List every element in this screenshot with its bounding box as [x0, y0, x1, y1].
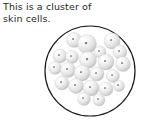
- cell-nucleus: [66, 68, 68, 70]
- cell-body: [99, 82, 113, 96]
- skin-cell: [78, 35, 97, 54]
- cell-body: [90, 67, 104, 81]
- cell-body: [66, 51, 79, 64]
- skin-cell: [114, 81, 125, 92]
- cell-body: [78, 35, 97, 54]
- skin-cell: [66, 51, 79, 64]
- skin-cell: [69, 79, 84, 94]
- skin-cell: [53, 49, 67, 63]
- cell-nucleus: [82, 97, 84, 99]
- skin-cell: [116, 57, 131, 72]
- skin-cell: [61, 63, 76, 78]
- cell-body: [69, 79, 84, 94]
- skin-cell-cluster-illustration: [0, 0, 147, 129]
- cell-nucleus: [98, 50, 100, 52]
- cell-body: [55, 76, 69, 90]
- skin-cell: [90, 67, 104, 81]
- cell-body: [114, 81, 125, 92]
- cell-nucleus: [53, 66, 55, 68]
- cell-nucleus: [95, 72, 97, 74]
- skin-cell: [99, 82, 113, 96]
- cell-nucleus: [86, 58, 88, 60]
- skin-cell: [98, 54, 114, 70]
- skin-cell: [49, 62, 62, 75]
- cell-nucleus: [58, 54, 60, 56]
- cell-nucleus: [74, 84, 76, 86]
- cell-nucleus: [70, 55, 72, 57]
- cell-nucleus: [121, 62, 123, 64]
- cell-nucleus: [110, 39, 112, 41]
- cell-nucleus: [89, 86, 91, 88]
- cell-nucleus: [72, 38, 74, 40]
- cell-nucleus: [118, 50, 120, 52]
- skin-cell: [78, 93, 91, 106]
- cell-body: [98, 54, 114, 70]
- cell-nucleus: [104, 87, 106, 89]
- cell-nucleus: [117, 84, 119, 86]
- figure-root: This is a cluster of skin cells.: [0, 0, 147, 129]
- cell-nucleus: [97, 98, 99, 100]
- cell-nucleus: [85, 42, 88, 45]
- cell-nucleus: [104, 60, 106, 62]
- cell-body: [116, 57, 131, 72]
- skin-cell: [93, 94, 105, 106]
- cell-nucleus: [80, 71, 82, 73]
- skin-cell: [55, 76, 69, 90]
- cell-body: [78, 93, 91, 106]
- cell-body: [49, 62, 62, 75]
- cell-body: [53, 49, 67, 63]
- cell-body: [61, 63, 76, 78]
- cell-nucleus: [111, 74, 113, 76]
- cell-body: [93, 94, 105, 106]
- cell-nucleus: [60, 81, 62, 83]
